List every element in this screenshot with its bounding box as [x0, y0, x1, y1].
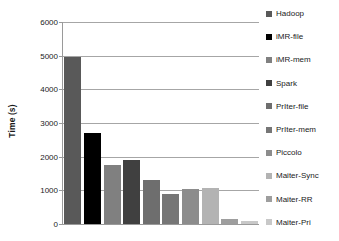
y-axis-title-label: Time (s): [7, 104, 17, 137]
legend-item-maiter-sync[interactable]: Maiter-Sync: [266, 170, 319, 181]
chart-legend: HadoopiMR-fileiMR-memSparkPrIter-filePrI…: [266, 8, 339, 236]
y-axis-tick-label: 5000: [24, 51, 58, 60]
y-axis-tick-label: 6000: [24, 18, 58, 27]
bar-imr-file: [84, 133, 101, 224]
y-axis-tick-label: 2000: [24, 152, 58, 161]
legend-item-priter-file[interactable]: PrIter-file: [266, 101, 308, 112]
bar-maiter-pri: [241, 221, 258, 224]
legend-swatch-icon: [266, 57, 272, 63]
y-axis-tick-label: 3000: [24, 119, 58, 128]
legend-swatch-icon: [266, 11, 272, 17]
bar-maiter-rr: [221, 219, 238, 224]
bar-priter-mem: [162, 194, 179, 224]
gridline: [63, 224, 259, 225]
bar-hadoop: [64, 57, 81, 224]
y-axis-tick-labels: 6000500040003000200010000: [20, 22, 58, 224]
legend-swatch-icon: [266, 34, 272, 40]
legend-label: PrIter-mem: [276, 124, 316, 135]
bar-imr-mem: [104, 165, 121, 224]
legend-item-imr-file[interactable]: iMR-file: [266, 31, 303, 42]
y-axis-tick-label: 4000: [24, 85, 58, 94]
legend-swatch-icon: [266, 173, 272, 179]
bar-priter-file: [143, 180, 160, 224]
legend-item-piccolo[interactable]: Piccolo: [266, 147, 302, 158]
legend-item-hadoop[interactable]: Hadoop: [266, 8, 304, 19]
y-axis-tick: [59, 224, 63, 225]
legend-item-imr-mem[interactable]: iMR-mem: [266, 54, 311, 65]
legend-item-priter-mem[interactable]: PrIter-mem: [266, 124, 316, 135]
plot-area: [62, 22, 258, 224]
y-axis-tick-label: 0: [24, 220, 58, 229]
legend-label: Maiter-Sync: [276, 170, 319, 181]
legend-swatch-icon: [266, 103, 272, 109]
legend-label: Maiter-RR: [276, 194, 312, 205]
legend-swatch-icon: [266, 219, 272, 225]
bar-chart: Time (s) 6000500040003000200010000 Hadoo…: [0, 0, 339, 241]
bar-spark: [123, 160, 140, 224]
y-axis-tick-label: 1000: [24, 186, 58, 195]
legend-item-spark[interactable]: Spark: [266, 78, 297, 89]
legend-label: Spark: [276, 78, 297, 89]
bar-maiter-sync: [202, 188, 219, 224]
legend-swatch-icon: [266, 127, 272, 133]
legend-item-maiter-pri[interactable]: Maiter-Pri: [266, 217, 311, 228]
legend-swatch-icon: [266, 80, 272, 86]
legend-label: Maiter-Pri: [276, 217, 311, 228]
legend-label: iMR-mem: [276, 54, 311, 65]
legend-label: PrIter-file: [276, 101, 308, 112]
legend-label: Hadoop: [276, 8, 304, 19]
y-axis-title: Time (s): [2, 0, 22, 241]
legend-label: iMR-file: [276, 31, 303, 42]
legend-swatch-icon: [266, 196, 272, 202]
bar-piccolo: [182, 189, 199, 224]
legend-swatch-icon: [266, 150, 272, 156]
legend-label: Piccolo: [276, 147, 302, 158]
bar-series: [63, 22, 259, 224]
legend-item-maiter-rr[interactable]: Maiter-RR: [266, 194, 312, 205]
